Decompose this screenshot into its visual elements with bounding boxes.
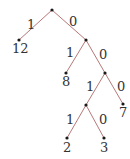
leaf-label-12: 12 xyxy=(12,41,29,56)
edge-label: 1 xyxy=(27,17,35,32)
edge-label: 1 xyxy=(66,112,74,127)
node-n1 xyxy=(84,38,87,41)
leaf-label-3: 3 xyxy=(100,140,108,155)
edge-label: 1 xyxy=(66,45,74,60)
node-n2 xyxy=(103,71,106,74)
edge-label: 1 xyxy=(86,79,94,94)
edge-label: 0 xyxy=(99,47,107,62)
edge-label: 0 xyxy=(117,79,125,94)
edge-label: 0 xyxy=(99,112,107,127)
huffman-tree-diagram: 1 0 1 0 1 0 1 0 12 8 7 2 3 xyxy=(0,0,130,159)
node-n3 xyxy=(84,103,87,106)
edge-root-leaf12 xyxy=(19,10,52,40)
edge-label: 0 xyxy=(69,14,77,29)
leaf-label-2: 2 xyxy=(63,140,71,155)
node-root xyxy=(50,8,53,11)
leaf-label-7: 7 xyxy=(119,105,127,120)
leaf-label-8: 8 xyxy=(62,74,70,89)
